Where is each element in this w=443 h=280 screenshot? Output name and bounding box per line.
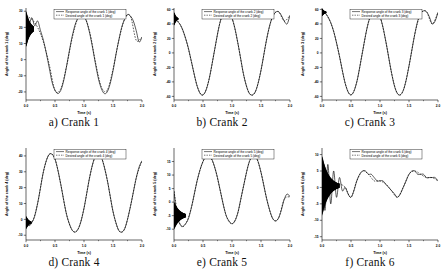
y-axis-ticks: -60-40-200204060: [166, 8, 174, 99]
axes: [26, 148, 142, 240]
panel-crank-1: 0.00.51.01.52.0-20-100102030Time (s)Angl…: [0, 0, 148, 140]
y-axis-ticks: -10-5051015: [166, 160, 174, 232]
svg-text:2.0: 2.0: [140, 244, 145, 248]
svg-text:20: 20: [19, 26, 23, 30]
svg-text:1.5: 1.5: [407, 244, 412, 248]
x-axis-label: Time (s): [77, 111, 92, 115]
svg-text:1.5: 1.5: [111, 244, 116, 248]
legend-label-desired: Desired angle of the crank 4 (deg): [66, 154, 113, 158]
svg-text:-20: -20: [314, 66, 319, 70]
svg-text:30: 30: [19, 9, 23, 13]
svg-text:1.0: 1.0: [230, 104, 235, 108]
legend: Response angle of the crank 3 (deg)Desir…: [350, 10, 422, 20]
plot-area-crank-4: 0.00.51.01.52.0-10010203040Time (s)Angle…: [0, 140, 148, 258]
plot-crank-4: 0.00.51.01.52.0-10010203040Time (s)Angle…: [0, 140, 148, 258]
axes: [26, 8, 142, 100]
panel-crank-4: 0.00.51.01.52.0-10010203040Time (s)Angle…: [0, 140, 148, 280]
svg-text:10: 10: [19, 42, 23, 46]
svg-text:1.0: 1.0: [378, 244, 383, 248]
panel-crank-5: 0.00.51.01.52.0-10-5051015Time (s)Angle …: [148, 140, 296, 280]
svg-text:-60: -60: [166, 95, 171, 99]
svg-text:-10: -10: [166, 227, 171, 231]
svg-text:1.0: 1.0: [82, 244, 87, 248]
legend-label-desired: Desired angle of the crank 3 (deg): [362, 14, 409, 18]
plot-crank-2: 0.00.51.01.52.0-60-40-200204060Time (s)A…: [148, 0, 296, 118]
axes: [174, 8, 290, 100]
svg-text:40: 40: [167, 22, 171, 26]
svg-text:1.5: 1.5: [407, 104, 412, 108]
svg-text:0.5: 0.5: [53, 244, 58, 248]
svg-text:1.5: 1.5: [111, 104, 116, 108]
series-response-line: [26, 154, 142, 233]
svg-text:20: 20: [19, 186, 23, 190]
series-response-line: [322, 11, 438, 95]
series-desired-line: [322, 11, 438, 95]
y-axis-ticks: -10010203040: [18, 154, 26, 237]
plot-area-crank-3: 0.00.51.01.52.0-60-40-200204060Time (s)A…: [296, 0, 443, 118]
series-group: [322, 9, 438, 95]
x-axis-label: Time (s): [225, 251, 240, 255]
x-axis-ticks: 0.00.51.01.52.0: [320, 100, 441, 108]
y-axis-label: Angle of the crank 6 (deg): [301, 171, 305, 216]
svg-text:-40: -40: [166, 80, 171, 84]
x-axis-ticks: 0.00.51.01.52.0: [172, 240, 293, 248]
svg-text:0.0: 0.0: [320, 104, 325, 108]
svg-text:5: 5: [169, 187, 171, 191]
svg-text:1.0: 1.0: [230, 244, 235, 248]
series-group: [174, 11, 290, 96]
series-desired-line: [174, 156, 290, 227]
transient-chatter: [174, 202, 186, 229]
plot-crank-3: 0.00.51.01.52.0-60-40-200204060Time (s)A…: [296, 0, 443, 118]
transient-chatter: [322, 9, 326, 16]
series-group: [26, 12, 142, 94]
transient-chatter: [174, 13, 178, 26]
y-axis-label: Angle of the crank 5 (deg): [153, 171, 157, 216]
svg-text:2.0: 2.0: [288, 104, 293, 108]
series-desired-line: [174, 11, 290, 96]
series-desired-line: [26, 14, 142, 92]
svg-text:1.0: 1.0: [82, 104, 87, 108]
x-axis-label: Time (s): [373, 251, 388, 255]
transient-chatter: [26, 12, 34, 47]
x-axis-ticks: 0.00.51.01.52.0: [320, 240, 441, 248]
svg-text:-5: -5: [168, 214, 171, 218]
svg-text:0.5: 0.5: [201, 104, 206, 108]
svg-text:40: 40: [19, 154, 23, 158]
panel-crank-3: 0.00.51.01.52.0-60-40-200204060Time (s)A…: [296, 0, 443, 140]
legend-label-desired: Desired angle of the crank 1 (deg): [66, 14, 113, 18]
x-axis-label: Time (s): [225, 111, 240, 115]
svg-text:0: 0: [21, 218, 23, 222]
series-response-line: [174, 11, 290, 95]
svg-text:0.5: 0.5: [53, 104, 58, 108]
svg-text:10: 10: [315, 153, 319, 157]
svg-text:0: 0: [317, 51, 319, 55]
svg-text:0: 0: [169, 51, 171, 55]
panel-crank-6: 0.00.51.01.52.0-15-10-50510Time (s)Angle…: [296, 140, 443, 280]
x-axis-label: Time (s): [77, 251, 92, 255]
transient-chatter: [26, 216, 31, 229]
series-group: [322, 157, 438, 216]
legend-label-desired: Desired angle of the crank 5 (deg): [214, 154, 261, 158]
y-axis-ticks: -20-100102030: [18, 9, 26, 94]
series-group: [26, 153, 142, 232]
legend: Response angle of the crank 6 (deg)Desir…: [350, 150, 422, 160]
y-axis-ticks: -60-40-200204060: [314, 8, 322, 99]
legend: Response angle of the crank 2 (deg)Desir…: [202, 10, 274, 20]
svg-text:40: 40: [315, 22, 319, 26]
svg-text:20: 20: [315, 37, 319, 41]
axes: [322, 8, 438, 100]
svg-text:0: 0: [317, 186, 319, 190]
plot-crank-5: 0.00.51.01.52.0-10-5051015Time (s)Angle …: [148, 140, 296, 258]
svg-text:2.0: 2.0: [436, 244, 441, 248]
svg-text:1.0: 1.0: [378, 104, 383, 108]
svg-text:2.0: 2.0: [288, 244, 293, 248]
plot-area-crank-6: 0.00.51.01.52.0-15-10-50510Time (s)Angle…: [296, 140, 443, 258]
series-desired-line: [26, 153, 142, 232]
svg-text:2.0: 2.0: [436, 104, 441, 108]
plot-area-crank-5: 0.00.51.01.52.0-10-5051015Time (s)Angle …: [148, 140, 296, 258]
svg-text:0.5: 0.5: [201, 244, 206, 248]
x-axis-ticks: 0.00.51.01.52.0: [172, 100, 293, 108]
x-axis-label: Time (s): [373, 111, 388, 115]
plot-area-crank-2: 0.00.51.01.52.0-60-40-200204060Time (s)A…: [148, 0, 296, 118]
svg-text:0.0: 0.0: [24, 244, 29, 248]
